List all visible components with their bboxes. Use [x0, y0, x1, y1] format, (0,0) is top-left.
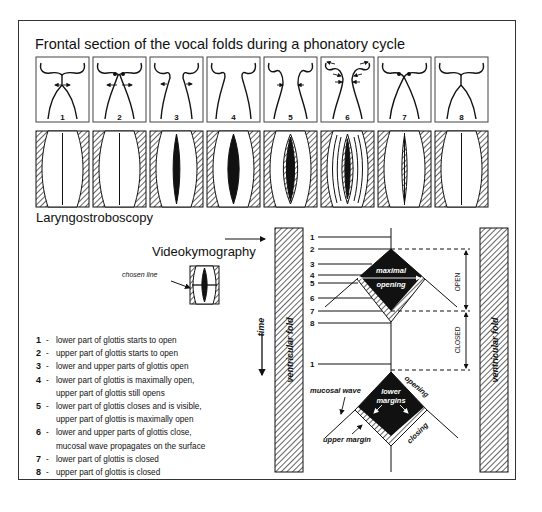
frontal-section-row	[36, 57, 488, 122]
stroboscopy-stage-3	[150, 131, 203, 207]
stage-number-1: 1	[60, 113, 65, 122]
svg-text:5: 5	[310, 279, 315, 288]
stage-number-7: 7	[402, 113, 407, 122]
kymogram: 1 2 3 4 5 6 7 8 1 maximal opening	[256, 228, 508, 472]
chosen-line-thumbnail	[190, 266, 219, 304]
svg-text:6: 6	[310, 294, 315, 303]
svg-text:3: 3	[310, 260, 315, 269]
legend-item-2: 2-upper part of glottis starts to open	[36, 347, 205, 360]
stage-number-2: 2	[117, 113, 122, 122]
stroboscopy-stage-5	[264, 131, 317, 207]
stage-number-8: 8	[459, 113, 464, 122]
legend-item-6: 6-lower and upper parts of glottis close…	[36, 426, 205, 452]
stroboscopy-row	[36, 131, 488, 207]
stage-legend: 1-lower part of glottis starts to open 2…	[36, 334, 205, 479]
legend-item-1: 1-lower part of glottis starts to open	[36, 334, 205, 347]
stage-number-6: 6	[345, 113, 350, 122]
stage-number-5: 5	[288, 113, 293, 122]
closed-label: CLOSED	[454, 326, 461, 353]
svg-text:8: 8	[310, 319, 315, 328]
svg-text:1: 1	[310, 233, 315, 242]
stage-number-3: 3	[174, 113, 179, 122]
time-label: time	[256, 318, 266, 337]
stroboscopy-stage-4	[207, 131, 260, 207]
stroboscopy-stage-1	[36, 131, 89, 207]
row-numbers: 1 2 3 4 5 6 7 8 1	[310, 233, 315, 369]
chosen-line-arrow	[171, 281, 190, 288]
open-label: OPEN	[454, 272, 461, 291]
mucosal-wave-label: mucosal wave	[310, 386, 361, 395]
stroboscopy-stage-2	[93, 131, 146, 207]
stroboscopy-stage-7	[378, 131, 431, 207]
legend-item-4: 4-lower part of glottis is maximally ope…	[36, 374, 205, 400]
svg-text:1: 1	[310, 360, 315, 369]
legend-item-3: 3-lower and upper parts of glottis open	[36, 360, 205, 373]
upper-margin-label: upper margin	[323, 435, 371, 444]
svg-text:margins: margins	[376, 396, 405, 405]
legend-item-7: 7-lower part of glottis is closed	[36, 453, 205, 466]
svg-text:2: 2	[310, 245, 315, 254]
legend-item-5: 5-lower part of glottis closes and is vi…	[36, 400, 205, 426]
frontal-stage-numbers: 1 2 3 4 5 6 7 8	[60, 113, 464, 122]
legend-item-8: 8-upper part of glottis is closed	[36, 466, 205, 479]
svg-text:opening: opening	[376, 280, 406, 289]
left-fold-label: ventricular fold	[285, 317, 295, 383]
right-fold-label: ventricular fold	[490, 317, 500, 383]
stroboscopy-stage-8	[435, 131, 488, 207]
stroboscopy-stage-6	[321, 131, 374, 207]
svg-text:7: 7	[310, 307, 315, 316]
stage-number-4: 4	[231, 113, 236, 122]
lower-margins-label: lower	[381, 387, 402, 396]
maximal-opening-label: maximal	[376, 266, 407, 275]
